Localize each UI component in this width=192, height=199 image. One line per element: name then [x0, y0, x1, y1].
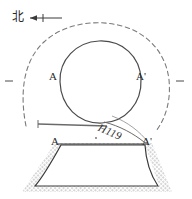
section-label-A-prime: A': [142, 136, 152, 147]
plan-label-A-prime: A': [136, 71, 146, 82]
section-label-A: A: [51, 136, 59, 147]
registration-dot: [95, 137, 97, 139]
north-arrow-icon: [30, 14, 62, 22]
pit-plan-outline: [60, 41, 141, 123]
diagram-canvas: [0, 0, 192, 199]
section-cut-line: [38, 124, 107, 126]
plan-label-A: A: [49, 71, 57, 82]
north-label: 北: [12, 11, 24, 23]
figure-container: 北 A A' H119 A A': [0, 0, 192, 199]
outer-dashed-arc: [23, 23, 169, 131]
